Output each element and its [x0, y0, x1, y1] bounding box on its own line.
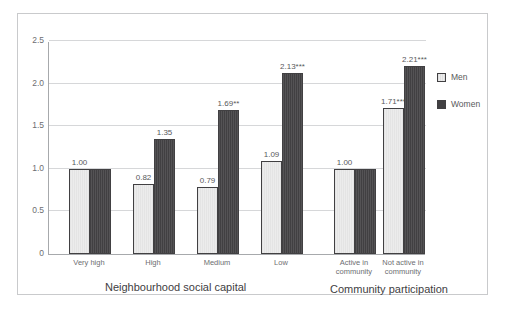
bar-men-low[interactable]: 1.09: [261, 161, 282, 254]
bar-value-men-not-active-in-community: 1.71***: [381, 97, 406, 106]
bar-value-women-high: 1.35: [157, 128, 173, 137]
bar-group-not-active-in-community: 1.71*** 2.21***: [383, 41, 425, 254]
chart-figure: 2.5 2.0 1.5 1.0 0.5 0 1.00 0.82: [0, 0, 505, 315]
bar-men-medium[interactable]: 0.79: [197, 187, 218, 254]
legend-item-women[interactable]: Women: [437, 99, 497, 109]
bar-women-active-in-community[interactable]: [355, 169, 376, 254]
bar-group-very-high: 1.00: [69, 41, 111, 254]
bar-value-women-not-active-in-community: 2.21***: [402, 55, 427, 64]
bar-group-low: 1.09 2.13***: [261, 41, 303, 254]
category-label-low: Low: [240, 258, 322, 267]
legend-item-men[interactable]: Men: [437, 72, 497, 82]
axis-title-neighbourhood-social-capital: Neighbourhood social capital: [105, 281, 246, 293]
bar-women-medium[interactable]: 1.69**: [218, 110, 239, 254]
bar-men-very-high[interactable]: 1.00: [69, 169, 90, 254]
bar-value-men-active-in-community: 1.00: [337, 158, 353, 167]
bar-value-women-medium: 1.69**: [218, 99, 240, 108]
bar-group-medium: 0.79 1.69**: [197, 41, 239, 254]
ytick-label-2.5: 2.5: [32, 35, 44, 45]
ytick-label-2.0: 2.0: [32, 78, 44, 88]
legend-label-women: Women: [451, 99, 480, 109]
ytick-label-0: 0: [39, 248, 44, 258]
legend-swatch-women-icon: [437, 100, 446, 109]
bar-women-not-active-in-community[interactable]: 2.21***: [404, 66, 425, 254]
bar-women-very-high[interactable]: [90, 169, 111, 254]
bar-value-men-low: 1.09: [264, 150, 280, 159]
bar-women-low[interactable]: 2.13***: [282, 73, 303, 255]
bar-value-men-medium: 0.79: [200, 176, 216, 185]
bar-men-not-active-in-community[interactable]: 1.71***: [383, 108, 404, 254]
legend-label-men: Men: [451, 72, 468, 82]
legend-swatch-men-icon: [437, 73, 446, 82]
axis-title-community-participation: Community participation: [330, 283, 448, 295]
ytick-label-1.5: 1.5: [32, 120, 44, 130]
bar-value-men-high: 0.82: [136, 173, 152, 182]
bar-group-high: 0.82 1.35: [133, 41, 175, 254]
bar-women-high[interactable]: 1.35: [154, 139, 175, 254]
legend: Men Women: [437, 72, 497, 126]
bar-men-active-in-community[interactable]: 1.00: [334, 169, 355, 254]
ytick-label-0.5: 0.5: [32, 205, 44, 215]
bar-value-men-very-high: 1.00: [72, 158, 88, 167]
bar-value-women-low: 2.13***: [280, 62, 305, 71]
bar-group-active-in-community: 1.00: [334, 41, 376, 254]
ytick-label-1.0: 1.0: [32, 163, 44, 173]
plot-area: 2.5 2.0 1.5 1.0 0.5 0 1.00 0.82: [48, 42, 425, 255]
category-label-not-active-in-community: Not active in community: [362, 258, 444, 276]
bar-men-high[interactable]: 0.82: [133, 184, 154, 254]
